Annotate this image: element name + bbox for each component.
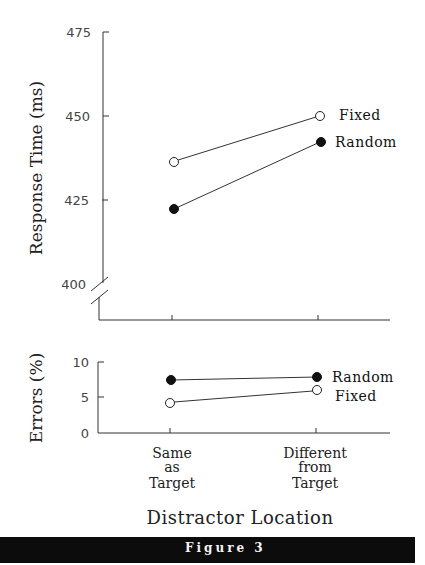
x-category-labels: Same as Target Different from Target <box>149 445 347 491</box>
err-y-tick-label: 0 <box>81 426 89 441</box>
category-same-line3: Target <box>149 475 196 491</box>
err-legend-fixed: Fixed <box>335 388 377 404</box>
rt-fixed-point-same <box>170 158 179 167</box>
rt-fixed-line <box>175 117 316 161</box>
rt-axis-break-mark <box>91 277 108 291</box>
rt-y-axis-title: Response Time (ms) <box>26 81 46 255</box>
err-random-point-same <box>167 376 176 385</box>
rt-y-tick-label: 425 <box>64 193 89 208</box>
rt-random-point-different <box>317 138 326 147</box>
err-y-axis-title: Errors (%) <box>26 353 46 444</box>
figure-caption: Figure 3 <box>185 541 266 555</box>
errors-panel: 10 5 0 Errors (%) Random Fixed <box>26 353 394 444</box>
response-time-panel: 475 450 425 400 Response Time (ms) Fixed… <box>26 25 397 320</box>
category-different-line2: from <box>298 459 332 475</box>
err-random-line <box>171 377 317 380</box>
rt-random-point-same <box>170 205 179 214</box>
rt-y-tick-label: 450 <box>65 109 90 124</box>
err-legend-random: Random <box>332 369 394 385</box>
err-random-point-different <box>313 373 322 382</box>
err-fixed-point-same <box>166 399 175 408</box>
rt-y-tick-label: 475 <box>66 25 91 40</box>
rt-legend-random: Random <box>335 134 397 150</box>
rt-y-tick-label: 400 <box>61 277 86 292</box>
rt-random-line <box>174 142 320 209</box>
x-axis-title: Distractor Location <box>147 507 334 528</box>
rt-fixed-point-different <box>316 112 325 121</box>
category-same-line2: as <box>164 459 180 475</box>
err-y-tick-label: 5 <box>81 390 89 405</box>
err-fixed-line <box>174 391 313 402</box>
category-different-line3: Target <box>292 475 339 491</box>
figure-3-chart: 475 450 425 400 Response Time (ms) Fixed… <box>0 0 425 565</box>
rt-legend-fixed: Fixed <box>339 107 381 123</box>
err-fixed-point-different <box>313 386 322 395</box>
err-y-tick-label: 10 <box>72 355 89 370</box>
